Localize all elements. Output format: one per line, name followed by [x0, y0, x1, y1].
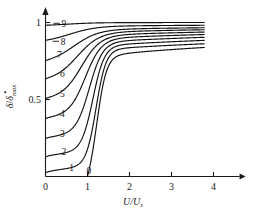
curve-label-8: 8: [61, 37, 66, 47]
curve-1: [46, 44, 205, 173]
curve-label-9: 9: [62, 19, 67, 29]
x-axis-title-main: U/U: [123, 196, 141, 207]
curve-series: [46, 23, 205, 177]
x-axis-arrow-icon: [240, 173, 246, 179]
y-tick-label-0.5: 0.5: [29, 94, 42, 105]
y-axis-title-dot-accent: [4, 91, 6, 93]
curve-label-3: 3: [60, 129, 65, 139]
x-tick-label-3: 3: [169, 181, 174, 192]
x-tick-label-2: 2: [127, 181, 132, 192]
curve-3: [46, 37, 205, 138]
tick-labels: 012340.51: [29, 17, 217, 192]
curve-label-4: 4: [60, 109, 65, 119]
x-axis-title-subscript: s: [140, 201, 143, 208]
curve-2: [46, 40, 205, 157]
x-tick-label-0: 0: [43, 181, 48, 192]
y-axis-title: δ/δmax: [5, 85, 17, 108]
x-tick-label-4: 4: [211, 181, 216, 192]
y-tick-label-1: 1: [36, 17, 41, 28]
y-axis-arrow-icon: [42, 7, 48, 15]
chart-figure: 012340.51 0123456789 U/Usδ/δmax: [0, 0, 253, 217]
curve-label-0: 0: [86, 166, 91, 176]
curve-label-5: 5: [60, 89, 65, 99]
curve-4: [46, 35, 205, 119]
curve-label-2: 2: [62, 147, 67, 157]
y-axis-title-subscript: max: [10, 85, 17, 96]
chart-canvas: 012340.51 0123456789 U/Usδ/δmax: [0, 0, 253, 217]
x-axis-title: U/Us: [123, 196, 143, 208]
curve-labels: 0123456789: [53, 19, 92, 177]
x-tick-label-1: 1: [85, 181, 90, 192]
curve-label-6: 6: [60, 69, 65, 79]
curve-label-1: 1: [69, 163, 74, 173]
axis-titles: U/Usδ/δmax: [4, 85, 143, 208]
curve-label-7: 7: [57, 50, 62, 60]
